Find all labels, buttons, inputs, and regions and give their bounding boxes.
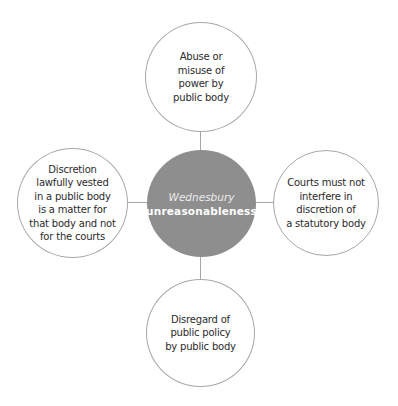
center-title-bold: unreasonableness <box>146 204 257 218</box>
node-top-label: Abuse or misuse of power by public body <box>173 50 229 104</box>
node-left-label: Discretion lawfully vested in a public b… <box>29 163 115 244</box>
diagram-canvas: Abuse or misuse of power by public body … <box>0 0 398 406</box>
node-left: Discretion lawfully vested in a public b… <box>17 148 128 258</box>
node-bottom: Disregard of public policy by public bod… <box>146 279 255 387</box>
connector-left <box>127 202 148 203</box>
node-center-hub: Wednesbury unreasonableness <box>147 150 256 257</box>
connector-top <box>200 131 201 151</box>
node-right-label: Courts must not interfere in discretion … <box>286 176 366 230</box>
connector-bottom <box>200 256 201 280</box>
connector-right <box>255 202 274 203</box>
node-right: Courts must not interfere in discretion … <box>273 150 379 256</box>
node-top: Abuse or misuse of power by public body <box>145 22 257 132</box>
center-title-italic: Wednesbury <box>169 190 235 204</box>
node-bottom-label: Disregard of public policy by public bod… <box>165 313 236 354</box>
